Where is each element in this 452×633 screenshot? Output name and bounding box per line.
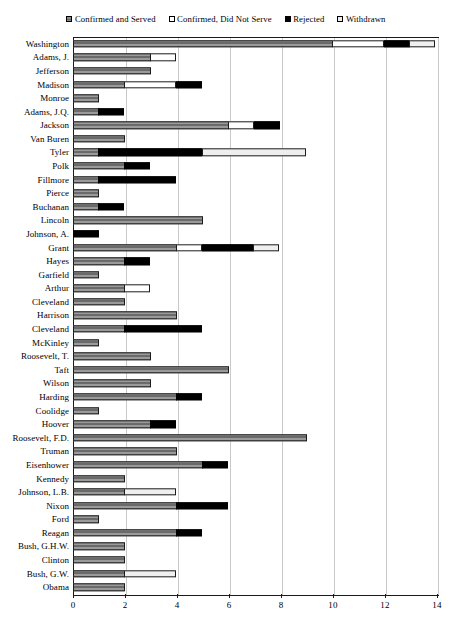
bar-segment-withdrawn [253,244,279,251]
stacked-bar [73,257,151,264]
stacked-bar [73,529,203,536]
legend-item-withdrawn: Withdrawn [337,14,385,24]
bar-segment-served [73,393,177,400]
bar-segment-served [73,203,99,210]
bar-segment-notserve [176,244,202,251]
axis-tick-label: 0 [71,600,76,610]
category-label: Harrison [37,311,69,320]
bar-row: Jefferson [0,64,452,78]
bar-segment-withdrawn [409,40,435,47]
bar-segment-served [73,94,99,101]
bar-segment-served [73,420,151,427]
category-label: Hayes [46,257,69,266]
bar-row: Clinton [0,553,452,567]
bar-segment-rejected [176,502,228,509]
bar-row: Taft [0,363,452,377]
bar-segment-served [73,108,99,115]
category-label: Adams, J. [33,53,69,62]
bar-segment-served [73,257,125,264]
legend-item-notserve: Confirmed, Did Not Serve [169,14,272,24]
category-label: Eisenhower [26,460,69,469]
stacked-bar [73,461,229,468]
bar-segment-served [73,312,177,319]
stacked-bar [73,176,177,183]
bar-segment-served [73,54,151,61]
bar-segment-withdrawn [124,570,176,577]
bar-segment-rejected [98,176,176,183]
stacked-bar [73,583,125,590]
category-label: Wilson [43,379,69,388]
category-label: Van Buren [30,134,69,143]
stacked-bar [73,230,99,237]
bar-segment-served [73,244,177,251]
stacked-bar [73,67,151,74]
bar-segment-served [73,190,99,197]
bar-segment-served [73,570,125,577]
bar-segment-served [73,217,203,224]
stacked-bar [73,149,307,156]
bar-segment-served [73,285,125,292]
category-label: Jefferson [36,66,69,75]
stacked-bar [73,420,177,427]
stacked-bar [73,407,99,414]
stacked-bar [73,203,125,210]
axis-tick-label: 12 [380,600,389,610]
bar-row: Buchanan [0,200,452,214]
bar-row: Roosevelt, F.D. [0,431,452,445]
category-label: Tyler [50,148,69,157]
stacked-bar [73,312,177,319]
stacked-bar [73,366,229,373]
bar-segment-served [73,135,125,142]
bar-segment-served [73,380,151,387]
chart-legend: Confirmed and ServedConfirmed, Did Not S… [0,14,452,24]
legend-label: Confirmed, Did Not Serve [177,14,272,24]
stacked-bar [73,488,177,495]
axis-tick-label: 6 [227,600,232,610]
category-label: Bush, G.H.W. [18,542,69,551]
category-label: Cleveland [32,325,69,334]
category-label: Reagan [42,528,69,537]
bar-segment-notserve [124,285,150,292]
bar-segment-served [73,488,125,495]
axis-tick [333,594,334,598]
stacked-bar [73,339,99,346]
category-label: Jackson [40,121,69,130]
stacked-bar [73,81,203,88]
legend-swatch-served-icon [66,16,72,22]
bar-row: Reagan [0,526,452,540]
bar-segment-served [73,502,177,509]
bar-segment-served [73,67,151,74]
bar-row: Van Buren [0,132,452,146]
bar-row: Johnson, L.B. [0,485,452,499]
bar-row: Grant [0,241,452,255]
stacked-bar [73,556,125,563]
bar-segment-served [73,339,99,346]
category-label: Ford [52,515,69,524]
category-label: Truman [41,447,69,456]
category-label: Hoover [42,420,69,429]
legend-item-served: Confirmed and Served [66,14,155,24]
bar-segment-served [73,448,177,455]
bar-segment-served [73,407,99,414]
bar-segment-rejected [202,461,228,468]
category-label: Taft [54,365,69,374]
bar-row: Arthur [0,282,452,296]
bar-row: Hoover [0,417,452,431]
bar-segment-withdrawn [124,488,176,495]
bar-row: Jackson [0,119,452,133]
axis-tick [437,594,438,598]
bar-segment-served [73,81,125,88]
category-label: Kennedy [36,474,69,483]
bar-segment-served [73,529,177,536]
category-label: Fillmore [38,175,69,184]
bar-row: Wilson [0,377,452,391]
bar-row: Tyler [0,146,452,160]
stacked-bar [73,325,203,332]
category-label: Garfield [39,270,69,279]
axis-tick-label: 14 [432,600,441,610]
stacked-bar [73,271,99,278]
category-label: Washington [26,39,69,48]
stacked-bar [73,298,125,305]
axis-tick-label: 2 [123,600,128,610]
legend-swatch-notserve-icon [169,16,175,22]
